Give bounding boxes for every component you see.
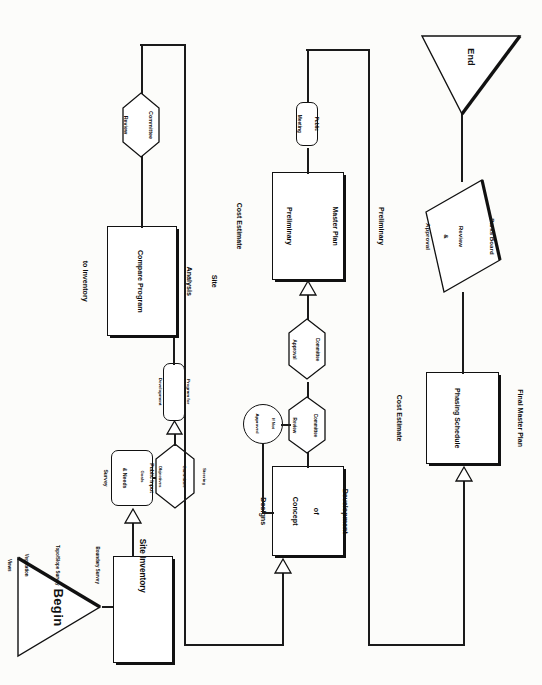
arrow-steering-to-program xyxy=(166,420,183,435)
node-if-not-approved: If NotApproved xyxy=(243,404,283,444)
parks-board-lines: Parks BoardReview&Approval xyxy=(415,233,510,240)
text-line: Parks Board xyxy=(489,218,496,254)
site-inventory-item: Views xyxy=(6,559,11,572)
text-line: Committee xyxy=(148,111,154,139)
text-line: Phasing Schedule xyxy=(453,388,461,448)
committee-review-1-lines: CommitteeReview xyxy=(117,122,165,128)
text-line: Review xyxy=(292,417,297,433)
connector-final-to-parks-board xyxy=(462,292,464,374)
text-line: Preliminary xyxy=(285,207,293,245)
final-master-plan-lines: Final Master PlanPhasing ScheduleCost Es… xyxy=(376,414,542,422)
if-not-approved-lines: If NotApproved xyxy=(247,421,279,426)
node-parks-board: Parks BoardReview&Approval xyxy=(424,178,502,294)
program-lines: Program forDevelopment xyxy=(147,389,201,394)
node-program-for-development: Program forDevelopment xyxy=(163,363,185,421)
node-public-meeting: PublicMeeting xyxy=(296,102,318,146)
text-line: Meeting xyxy=(296,115,302,133)
node-steering-committee: SteeringCommitteeObjectivesGoals xyxy=(155,443,195,509)
text-line: Development xyxy=(158,378,163,406)
text-line: Public xyxy=(314,117,320,131)
text-line: of xyxy=(311,508,319,515)
text-line: Preliminary xyxy=(376,207,384,245)
text-line: Site xyxy=(209,274,217,287)
text-line: Concept xyxy=(290,497,298,526)
connector-public-meeting-up xyxy=(307,49,309,103)
connector-preliminary-to-public-meeting xyxy=(307,148,309,174)
node-end: End xyxy=(416,30,526,118)
text-line: Steering xyxy=(202,467,207,484)
arrow-into-final-master-plan xyxy=(455,466,473,482)
text-line: Approved xyxy=(254,414,259,434)
text-line: Final Master Plan xyxy=(516,389,524,447)
text-line: Committee xyxy=(313,413,318,437)
connector-col1-bottom-rail xyxy=(184,644,283,646)
connector-col2-to-col3-down xyxy=(368,49,370,646)
flowchart-sheet: Begin Site Inventory Boundary SurveyTopo… xyxy=(0,0,542,685)
text-line: Cost Estimate xyxy=(236,203,244,250)
node-committee-review-1: CommitteeReview xyxy=(122,92,160,158)
text-line: Approval xyxy=(292,339,297,359)
connector-site-analysis-to-review1 xyxy=(141,155,143,228)
text-line: & Needs xyxy=(123,468,129,489)
text-line: to Inventory xyxy=(81,260,89,301)
site-inventory-heading: Site Inventory xyxy=(137,539,147,593)
text-line: Review xyxy=(123,116,129,135)
site-inventory-item: Vegetation xyxy=(24,554,29,577)
committee-approval-lines: CommitteeApproval xyxy=(285,347,330,352)
text-line: Development xyxy=(340,488,348,533)
connector-inventory-to-public-input xyxy=(132,520,134,557)
node-committee-review-2: CommitteeReview xyxy=(288,396,326,454)
arrow-into-development-concept xyxy=(274,558,292,574)
public-meeting-lines: PublicMeeting xyxy=(290,121,324,127)
connector-program-to-site-analysis xyxy=(173,337,175,365)
node-site-analysis: SiteAnalysisCompare Programto Inventory xyxy=(107,226,177,336)
connector-review2-to-approval xyxy=(307,382,309,398)
arrow-inventory-to-public-input xyxy=(124,508,142,524)
connector-review1-up xyxy=(141,44,143,94)
text-line: Analysis xyxy=(185,266,193,296)
committee-review-2-lines: CommitteeReview xyxy=(287,423,328,428)
text-line: Survey xyxy=(103,469,109,486)
text-line: Approval xyxy=(425,223,432,250)
steering-committee-lines: SteeringCommitteeObjectivesGoals xyxy=(137,474,213,479)
connector-ifnot-loop-into-development xyxy=(262,512,274,514)
connector-approval-to-preliminary xyxy=(307,292,309,320)
text-line: If Not xyxy=(271,419,276,430)
node-development-concept: DevelopmentofConceptDesigns xyxy=(272,466,344,556)
text-line: Cost Estimate xyxy=(395,395,403,442)
site-inventory-item: Boundary Survey xyxy=(94,547,99,584)
text-line: Program for xyxy=(186,379,191,404)
text-line: & xyxy=(443,234,450,238)
text-line: Master Plan xyxy=(331,206,339,245)
end-label: End xyxy=(466,48,476,65)
connector-col2-bottom-up xyxy=(282,570,284,646)
text-line: Committee xyxy=(315,337,320,361)
preliminary-plan-lines: PreliminaryMaster PlanPreliminaryCost Es… xyxy=(216,222,399,230)
connector-col2-bottom-rail xyxy=(368,644,464,646)
site-analysis-lines: SiteAnalysisCompare Programto Inventory xyxy=(64,277,220,285)
connector-development-to-review2 xyxy=(307,452,309,468)
text-line: Compare Program xyxy=(135,250,143,313)
text-line: Review xyxy=(458,225,465,246)
connector-ifnot-loop-down xyxy=(262,443,264,513)
connector-col1-to-col2-down xyxy=(184,44,186,645)
site-inventory-content: Site Inventory Boundary SurveyTopo/Slope… xyxy=(114,557,172,662)
node-preliminary-plan: PreliminaryMaster PlanPreliminaryCost Es… xyxy=(272,172,344,280)
text-line: Goals xyxy=(140,470,145,482)
connector-col1-top-rail xyxy=(140,44,185,46)
node-site-inventory: Site Inventory Boundary SurveyTopo/Slope… xyxy=(113,556,173,663)
node-final-master-plan: Final Master PlanPhasing ScheduleCost Es… xyxy=(426,372,499,464)
connector-col3-bottom-up xyxy=(463,478,465,646)
site-inventory-list: Boundary SurveyTopo/Slope SurveyVegetati… xyxy=(0,563,115,568)
begin-label: Begin xyxy=(51,588,66,626)
arrow-into-preliminary-plan xyxy=(299,280,317,296)
site-inventory-item: Topo/Slope Survey xyxy=(55,545,60,585)
node-committee-approval: CommitteeApproval xyxy=(288,318,326,380)
connector-col2-top-rail xyxy=(306,49,369,51)
connector-review2-to-ifnot xyxy=(281,424,291,426)
development-concept-lines: DevelopmentofConceptDesigns xyxy=(249,507,367,515)
text-line: Objectives xyxy=(158,465,163,487)
